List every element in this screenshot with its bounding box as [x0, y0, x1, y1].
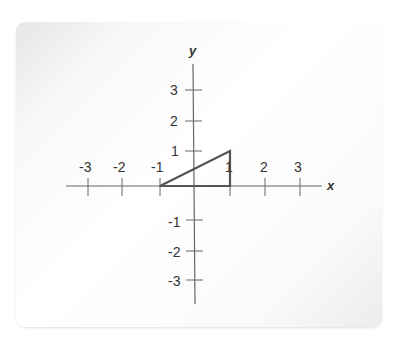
y-axis-label: y — [188, 43, 197, 58]
y-tick-label: 2 — [170, 113, 178, 129]
x-tick-label: 2 — [260, 159, 268, 175]
y-axis — [193, 64, 195, 304]
coordinate-plane: y x -3 -2 -1 1 2 3 3 2 1 -1 -2 -3 — [0, 0, 398, 344]
x-axis-label: x — [326, 178, 335, 193]
x-tick-label: 3 — [294, 159, 302, 175]
y-tick-label: 1 — [171, 143, 179, 159]
y-tick-label: -2 — [168, 244, 181, 260]
y-tick-label: 3 — [170, 82, 178, 98]
x-tick-label: -3 — [79, 159, 92, 175]
x-tick-label: -1 — [151, 159, 164, 175]
x-tick-label: 1 — [225, 159, 233, 175]
y-tick-label: -3 — [168, 273, 181, 289]
x-tick-label: -2 — [113, 159, 126, 175]
y-tick-label: -1 — [168, 214, 181, 230]
